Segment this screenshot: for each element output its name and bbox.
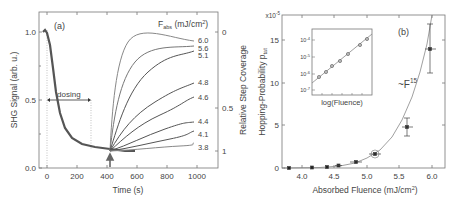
legend-title: Fabs (mJ/cm2) xyxy=(158,19,208,30)
inset-xlabel: log(Fluence) xyxy=(321,98,363,107)
recovery-curves xyxy=(110,33,194,151)
panel-b-xlabel: Absorbed Fluence (mJ/cm2) xyxy=(312,185,417,195)
panel-b-ylabel: Hopping-Probability ptat xyxy=(257,48,268,136)
panel-a-y2label: Relative Step Coverage xyxy=(238,45,248,135)
panel-b-ytick-labels: 0 5 10 15 xyxy=(270,36,279,173)
panel-a-ylabel: SHG Signal (arb. u.) xyxy=(9,52,19,129)
panel-b-xtick-labels: 4.0 4.5 5.0 5.5 6.0 xyxy=(296,172,438,181)
y2tick-label: 0.5 xyxy=(222,104,234,113)
xtick-label: 800 xyxy=(160,172,174,181)
panel-a: 0 200 400 600 800 1000 0.0 0.5 1.0 0 0.5… xyxy=(9,12,248,195)
ytick-label: 5 xyxy=(275,121,280,130)
y-scale-factor: x10-5 xyxy=(266,11,281,19)
xtick-label: 4.0 xyxy=(296,172,308,181)
ytick-label: 1.0 xyxy=(25,28,37,37)
figure: 0 200 400 600 800 1000 0.0 0.5 1.0 0 0.5… xyxy=(0,0,453,202)
curve-label: 5.1 xyxy=(198,51,208,60)
panel-a-y2tick-labels: 0 0.5 1 xyxy=(222,28,234,156)
ytick-label: 15 xyxy=(270,36,279,45)
ytick-label: 0 xyxy=(275,164,280,173)
panel-a-xlabel: Time (s) xyxy=(113,185,144,195)
panel-a-label: (a) xyxy=(54,21,65,31)
dosing-label: dosing xyxy=(57,90,81,99)
ytick-label: 0.0 xyxy=(25,164,37,173)
svg-text:10-6: 10-6 xyxy=(300,70,310,77)
curve-label: 4.1 xyxy=(198,130,208,139)
panel-b: 4.0 4.5 5.0 5.5 6.0 0 5 10 15 x10-5 Abso… xyxy=(257,11,445,195)
xtick-label: 6.0 xyxy=(426,172,438,181)
curve-label: 4.4 xyxy=(198,117,208,126)
xtick-label: 5.5 xyxy=(393,172,405,181)
xtick-label: 5.0 xyxy=(361,172,373,181)
inset-frame xyxy=(312,29,372,95)
curve-label: 4.8 xyxy=(198,78,208,87)
xtick-label: 0 xyxy=(45,172,50,181)
ytick-label: 10 xyxy=(270,79,279,88)
xtick-label: 400 xyxy=(100,172,114,181)
xtick-label: 4.5 xyxy=(328,172,340,181)
inset-chart: 10-4 10-5 10-6 10-7 log(Fluence) xyxy=(300,29,372,107)
xtick-label: 1000 xyxy=(188,172,206,181)
svg-text:10-7: 10-7 xyxy=(300,86,310,93)
xtick-label: 600 xyxy=(130,172,144,181)
panel-a-ytick-labels: 0.0 0.5 1.0 xyxy=(25,28,37,173)
ytick-label: 0.5 xyxy=(25,96,37,105)
panel-b-label: (b) xyxy=(398,27,409,37)
laser-on-arrow xyxy=(107,154,113,167)
y2tick-label: 1 xyxy=(222,147,227,156)
inset-ytick-labels: 10-4 10-5 10-6 10-7 xyxy=(300,36,310,93)
y2tick-label: 0 xyxy=(222,28,227,37)
curve-labels: 6.0 5.6 5.1 4.8 4.6 4.4 4.1 3.8 xyxy=(198,36,208,152)
svg-text:10-4: 10-4 xyxy=(300,36,310,43)
curve-label: 3.8 xyxy=(198,143,208,152)
xtick-label: 200 xyxy=(70,172,84,181)
curve-label: 4.6 xyxy=(198,93,208,102)
panel-a-xtick-labels: 0 200 400 600 800 1000 xyxy=(45,172,207,181)
svg-text:10-5: 10-5 xyxy=(300,53,310,60)
